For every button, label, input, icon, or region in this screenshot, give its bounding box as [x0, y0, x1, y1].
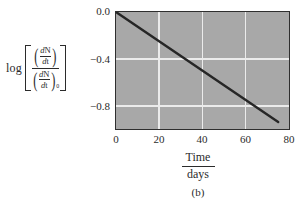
derivative-numerator: dN dt: [40, 46, 51, 66]
x-tick-label-60: 60: [240, 133, 251, 145]
N-symbol: N: [45, 45, 51, 55]
figure-caption: (b): [168, 186, 228, 198]
open-paren-icon: (: [33, 71, 37, 89]
x-axis-label: Time days: [168, 150, 228, 182]
bracket-group: ( dN dt ) ( dN dt ) 0: [25, 45, 66, 90]
N-symbol: N: [43, 69, 49, 79]
log-function-label: log: [6, 61, 22, 76]
t-symbol: t: [45, 80, 47, 90]
close-paren-icon: ): [53, 47, 57, 65]
y-tick-label-1: −0.4: [78, 53, 110, 65]
right-square-bracket: [60, 45, 66, 90]
t-symbol: t: [46, 56, 48, 66]
derivative-denominator: dN dt: [39, 70, 50, 90]
x-tick-label-0: 0: [113, 133, 119, 145]
close-paren-icon: ): [51, 71, 55, 89]
initial-rate-subscript: 0: [56, 83, 59, 90]
x-tick-label-40: 40: [197, 133, 208, 145]
y-tick-label-2: −0.8: [78, 100, 110, 112]
plot-area: [115, 11, 290, 130]
x-axis-label-denominator: days: [168, 167, 228, 182]
x-axis-label-numerator: Time: [168, 150, 228, 165]
dt-denominator: dt: [41, 81, 48, 90]
decay-line: [116, 12, 278, 122]
dN-numerator: dN: [39, 70, 49, 79]
x-tick-label-20: 20: [154, 133, 165, 145]
dN-numerator: dN: [40, 46, 50, 55]
denominator-term: ( dN dt ) 0: [32, 70, 59, 90]
y-tick-label-0: 0.0: [78, 5, 110, 17]
ratio-fraction: ( dN dt ) ( dN dt ) 0: [31, 45, 60, 90]
plot-inner: [116, 12, 289, 129]
open-paren-icon: (: [34, 47, 38, 65]
numerator-term: ( dN dt ): [33, 46, 58, 66]
y-axis-label: log ( dN dt ) ( dN dt ): [6, 28, 110, 108]
decay-line-series: [116, 12, 289, 129]
x-tick-label-80: 80: [284, 133, 295, 145]
dt-denominator: dt: [42, 57, 49, 66]
